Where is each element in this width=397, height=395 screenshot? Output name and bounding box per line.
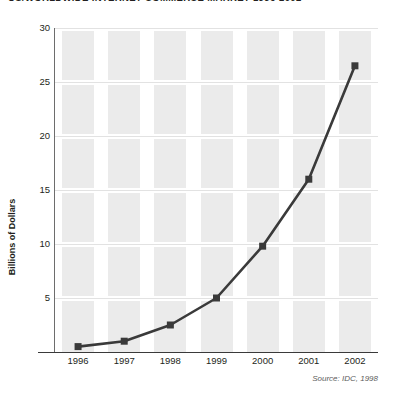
source-note: Source: IDC, 1998 bbox=[312, 374, 378, 383]
data-point-marker bbox=[351, 62, 358, 69]
data-point-marker bbox=[213, 295, 220, 302]
data-point-marker bbox=[259, 243, 266, 250]
data-point-marker bbox=[75, 343, 82, 350]
data-series-layer bbox=[0, 0, 397, 395]
data-point-marker bbox=[167, 322, 174, 329]
data-point-marker bbox=[305, 176, 312, 183]
series-line bbox=[78, 66, 355, 347]
chart-figure: 51015202530 1996199719981999200020012002… bbox=[0, 0, 397, 395]
series-markers bbox=[75, 62, 359, 350]
data-point-marker bbox=[121, 338, 128, 345]
